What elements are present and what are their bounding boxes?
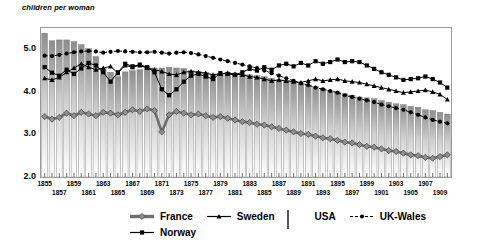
legend-row-1: FranceSwedenUSAUK-Wales xyxy=(128,211,438,222)
usa-bar xyxy=(349,95,355,177)
marker-square xyxy=(357,60,361,64)
marker-dot xyxy=(321,87,325,91)
usa-bar xyxy=(152,68,158,177)
usa-bar xyxy=(49,41,55,177)
marker-dot xyxy=(360,214,364,218)
x-tick-label: 1907 xyxy=(418,180,432,187)
x-tick-label: 1879 xyxy=(213,180,227,187)
usa-bar xyxy=(196,71,202,177)
usa-bar xyxy=(335,92,341,177)
marker-dot xyxy=(343,93,347,97)
legend-label: Norway xyxy=(160,227,196,238)
marker-dot xyxy=(416,113,420,117)
marker-square xyxy=(108,80,112,84)
marker-square xyxy=(372,67,376,71)
marker-square xyxy=(248,67,252,71)
usa-bar xyxy=(239,74,245,177)
marker-dot xyxy=(43,54,47,58)
plot-area xyxy=(40,27,452,178)
usa-bar xyxy=(122,72,128,177)
usa-bar xyxy=(210,74,216,177)
marker-square xyxy=(379,70,383,74)
x-tick-label: 1887 xyxy=(272,180,286,187)
marker-square xyxy=(174,87,178,91)
marker-dot xyxy=(379,103,383,107)
x-tick-label: 1891 xyxy=(301,180,315,187)
usa-bar xyxy=(327,90,333,177)
x-tick-label: 1863 xyxy=(96,180,110,187)
marker-dot xyxy=(277,74,281,78)
marker-dot xyxy=(174,51,178,55)
marker-dot xyxy=(372,100,376,104)
marker-square xyxy=(306,63,310,67)
y-axis: 2.03.04.05.0 xyxy=(0,27,36,178)
marker-dot xyxy=(394,106,398,110)
legend-item-uk-wales[interactable]: UK-Wales xyxy=(348,211,426,222)
usa-bar xyxy=(401,105,407,177)
marker-dot xyxy=(423,115,427,119)
marker-square xyxy=(140,230,144,234)
usa-bar xyxy=(100,68,106,177)
x-tick-label: 1857 xyxy=(52,189,66,196)
usa-bar xyxy=(232,73,238,177)
marker-diamond xyxy=(139,213,145,219)
marker-dot xyxy=(431,118,435,122)
x-tick-label: 1859 xyxy=(67,180,81,187)
y-axis-title: children per woman xyxy=(22,3,95,12)
marker-dot xyxy=(196,52,200,56)
x-tick-label: 1867 xyxy=(125,180,139,187)
marker-square xyxy=(189,74,193,78)
legend-label: Sweden xyxy=(237,211,275,222)
marker-dot xyxy=(313,86,317,90)
marker-dot xyxy=(182,50,186,54)
legend-marker-square xyxy=(128,227,156,238)
y-tick-label: 5.0 xyxy=(6,43,36,53)
usa-bar xyxy=(386,102,392,177)
x-tick-label: 1909 xyxy=(433,189,447,196)
usa-bar xyxy=(203,72,209,177)
usa-bar xyxy=(313,87,319,177)
x-tick-label: 1885 xyxy=(257,189,271,196)
x-tick-label: 1901 xyxy=(374,189,388,196)
x-tick-label: 1883 xyxy=(242,180,256,187)
legend-item-usa[interactable]: USA xyxy=(287,211,336,222)
marker-dot xyxy=(306,83,310,87)
marker-square xyxy=(182,80,186,84)
usa-bar xyxy=(320,88,326,177)
marker-dot xyxy=(138,50,142,54)
marker-triangle xyxy=(108,64,113,69)
marker-square xyxy=(255,68,259,72)
legend-item-france[interactable]: France xyxy=(128,211,193,222)
marker-dot xyxy=(233,61,237,65)
usa-bar xyxy=(364,98,370,177)
marker-square xyxy=(262,65,266,69)
marker-square xyxy=(335,57,339,61)
legend-label: UK-Wales xyxy=(380,211,426,222)
marker-square xyxy=(284,62,288,66)
marker-square xyxy=(423,74,427,78)
x-tick-label: 1865 xyxy=(111,189,125,196)
x-tick-label: 1875 xyxy=(184,180,198,187)
marker-square xyxy=(94,63,98,67)
marker-dot xyxy=(357,97,361,101)
marker-dot xyxy=(86,49,90,53)
usa-bar xyxy=(64,40,70,177)
chart-canvas xyxy=(41,28,451,177)
marker-dot xyxy=(57,53,61,57)
usa-bar xyxy=(130,71,136,177)
marker-dot xyxy=(211,56,215,60)
marker-square xyxy=(387,73,391,77)
usa-bar xyxy=(115,77,121,177)
chart-root: children per woman 2.03.04.05.0 18551857… xyxy=(0,0,479,249)
usa-bar xyxy=(342,94,348,177)
marker-square xyxy=(321,62,325,66)
x-tick-label: 1895 xyxy=(330,180,344,187)
marker-dot xyxy=(328,89,332,93)
marker-dot xyxy=(50,54,54,58)
legend-item-sweden[interactable]: Sweden xyxy=(205,211,275,222)
marker-dot xyxy=(167,51,171,55)
marker-square xyxy=(431,77,435,81)
marker-dot xyxy=(350,95,354,99)
legend-item-norway[interactable]: Norway xyxy=(128,227,196,238)
marker-dot xyxy=(94,49,98,53)
